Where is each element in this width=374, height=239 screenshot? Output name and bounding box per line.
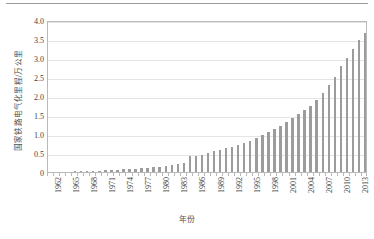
x-tick-mark [366,173,367,176]
bar [134,169,136,172]
x-tick-mark [132,173,133,176]
bar [291,118,293,172]
x-tick-label: 2013 [361,177,370,211]
x-tick-label: 1962 [54,177,63,211]
y-axis-tick-labels: 4.03.53.02.52.01.51.00.50 [20,21,44,173]
bar [177,164,179,172]
bar-series [48,22,366,172]
x-tick-mark [89,173,90,176]
bar [352,49,354,173]
bar [237,145,239,172]
y-tick-label: 1.0 [20,131,44,140]
x-tick-mark [325,173,326,176]
x-tick-mark [95,173,96,176]
x-tick-mark [295,173,296,176]
x-tick-label: 1995 [253,177,262,211]
x-tick-mark [47,173,48,176]
x-tick-mark [349,173,350,176]
bar [322,93,324,172]
x-tick-mark [343,173,344,176]
x-tick-label: 1980 [162,177,171,211]
x-tick-mark [258,173,259,176]
bar [243,143,245,172]
x-tick-label: 2001 [289,177,298,211]
x-tick-mark [59,173,60,176]
x-tick-label: 1971 [108,177,117,211]
bar [122,169,124,172]
bar [189,156,191,172]
x-tick-label: 1986 [198,177,207,211]
x-tick-mark [270,173,271,176]
x-tick-mark [174,173,175,176]
x-tick-label: 1983 [180,177,189,211]
bar [50,172,52,173]
bar [183,163,185,172]
bar [140,168,142,172]
x-tick-label: 2010 [343,177,352,211]
x-tick-mark [216,173,217,176]
x-tick-label: 2004 [307,177,316,211]
x-tick-label: 2007 [325,177,334,211]
x-tick-mark [276,173,277,176]
bar [340,66,342,172]
bar [62,172,64,173]
bar [68,172,70,173]
bar [56,172,58,173]
x-tick-label: 1968 [90,177,99,211]
bar [171,165,173,172]
x-tick-mark [83,173,84,176]
x-tick-mark [319,173,320,176]
bar [225,148,227,172]
x-tick-label: 1974 [126,177,135,211]
x-tick-label: 1989 [217,177,226,211]
x-tick-mark [125,173,126,176]
x-tick-mark [289,173,290,176]
bar [146,168,148,172]
x-tick-mark [144,173,145,176]
plot-area [47,21,367,173]
bar [152,167,154,172]
bar [285,122,287,172]
bar [92,171,94,172]
y-tick-label: 4.0 [20,17,44,26]
x-tick-mark [222,173,223,176]
bar [249,141,251,172]
bar [207,153,209,172]
x-tick-mark [331,173,332,176]
bar [267,132,269,172]
x-tick-label: 1977 [144,177,153,211]
x-tick-mark [337,173,338,176]
x-tick-mark [355,173,356,176]
chart-figure: 国家铁路电气化里程/万公里 4.03.53.02.52.01.51.00.50 … [0,0,374,239]
x-axis-title: 年份 [0,213,374,224]
bar [328,85,330,172]
x-tick-mark [282,173,283,176]
x-tick-mark [150,173,151,176]
y-tick-label: 0.5 [20,150,44,159]
x-tick-mark [301,173,302,176]
x-tick-label: 1992 [235,177,244,211]
x-tick-mark [210,173,211,176]
x-tick-mark [186,173,187,176]
x-tick-mark [156,173,157,176]
bar [116,170,118,172]
x-tick-mark [138,173,139,176]
bar [334,77,336,172]
bar [255,138,257,172]
x-tick-mark [180,173,181,176]
top-divider-rule [6,3,368,4]
bar [110,170,112,172]
x-tick-mark [168,173,169,176]
bar [128,169,130,172]
x-tick-mark [192,173,193,176]
x-axis-tick-labels: 1962196519681971197419771980198319861989… [47,177,367,211]
x-tick-mark [313,173,314,176]
bar [303,110,305,172]
bar [213,151,215,172]
x-tick-mark [162,173,163,176]
bar [297,114,299,172]
x-tick-mark [107,173,108,176]
x-tick-mark [113,173,114,176]
x-tick-mark [198,173,199,176]
bar [74,171,76,172]
